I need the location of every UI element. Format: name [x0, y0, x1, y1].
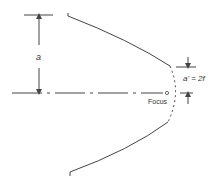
parabola-vertex-dashed — [168, 66, 176, 122]
parabola-lower-branch — [70, 122, 168, 176]
parabola-diagram: a Focus a' = 2f — [0, 0, 221, 185]
focus-point — [165, 91, 168, 94]
label-focus: Focus — [148, 98, 168, 105]
label-a: a — [36, 52, 41, 62]
label-a-prime: a' = 2f — [183, 74, 206, 83]
parabola-upper-branch — [68, 13, 170, 66]
